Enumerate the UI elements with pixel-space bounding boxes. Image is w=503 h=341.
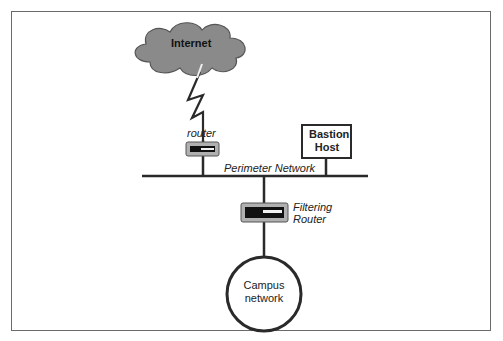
bastion-label-line1: Bastion — [309, 128, 345, 140]
bastion-label-line2: Host — [309, 141, 345, 153]
filtering-router-icon — [241, 176, 288, 258]
router-label: router — [187, 127, 216, 139]
campus-label-line2: network — [236, 292, 292, 304]
internet-cloud-icon — [135, 23, 245, 76]
filtering-router-label-line2: Router — [293, 213, 326, 225]
filtering-router-label-line1: Filtering — [293, 201, 332, 213]
internet-label: Internet — [171, 37, 211, 49]
exterior-router-icon — [186, 140, 219, 176]
campus-label-line1: Campus — [236, 279, 292, 291]
perimeter-network-label: Perimeter Network — [224, 162, 315, 174]
